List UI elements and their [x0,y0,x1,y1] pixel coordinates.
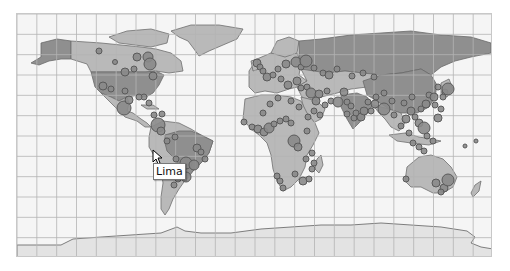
city-marker[interactable] [122,88,128,94]
new-zealand[interactable] [471,181,481,197]
city-marker[interactable] [324,88,330,94]
city-marker[interactable] [151,112,157,118]
city-marker[interactable] [410,140,416,146]
city-marker[interactable] [136,94,142,100]
city-marker[interactable] [371,100,379,108]
city-marker[interactable] [267,101,273,107]
city-marker[interactable] [371,74,377,80]
city-marker[interactable] [202,156,208,162]
city-marker[interactable] [406,130,412,136]
city-marker[interactable] [288,120,294,126]
city-marker[interactable] [421,148,427,154]
city-marker[interactable] [403,176,409,182]
city-marker[interactable] [353,110,359,116]
city-marker[interactable] [288,98,294,104]
city-marker[interactable] [270,72,276,78]
city-marker[interactable] [381,90,387,96]
city-marker[interactable] [300,55,312,67]
city-marker[interactable] [378,103,390,115]
city-marker[interactable] [282,60,290,68]
city-marker[interactable] [131,66,137,72]
city-marker[interactable] [418,122,430,134]
antarctica[interactable] [17,223,492,257]
city-marker[interactable] [333,97,343,107]
city-marker[interactable] [348,103,354,109]
city-marker[interactable] [334,66,340,72]
map-canvas[interactable] [17,14,492,257]
city-marker[interactable] [293,77,301,85]
city-marker[interactable] [309,166,315,172]
city-marker[interactable] [422,100,430,108]
city-marker[interactable] [189,160,199,170]
city-marker[interactable] [164,138,170,144]
city-marker[interactable] [401,100,407,106]
city-marker[interactable] [442,83,454,95]
city-marker[interactable] [198,149,204,155]
world-map[interactable]: Lima [16,13,492,257]
city-marker[interactable] [311,108,317,114]
city-marker[interactable] [424,133,430,139]
city-marker[interactable] [435,84,441,90]
city-marker[interactable] [368,108,374,114]
city-marker[interactable] [241,119,247,125]
city-marker[interactable] [391,112,397,118]
city-marker[interactable] [365,99,371,105]
city-marker[interactable] [349,73,355,79]
city-marker[interactable] [260,110,266,116]
city-marker[interactable] [292,171,298,177]
city-marker[interactable] [278,76,284,82]
city-marker[interactable] [274,173,280,179]
city-marker[interactable] [311,160,317,166]
city-marker[interactable] [312,97,320,105]
city-marker[interactable] [305,114,311,120]
city-marker[interactable] [108,86,114,92]
city-marker[interactable] [284,81,292,89]
city-marker[interactable] [159,111,165,117]
city-marker[interactable] [275,66,281,72]
city-marker[interactable] [294,143,302,151]
city-marker[interactable] [99,82,107,90]
city-marker[interactable] [296,104,302,110]
city-marker[interactable] [125,96,133,104]
city-marker[interactable] [133,53,141,61]
city-marker[interactable] [389,98,395,104]
city-marker[interactable] [402,115,410,123]
city-marker[interactable] [311,65,317,71]
city-marker[interactable] [430,93,438,101]
city-marker[interactable] [306,176,312,182]
city-marker[interactable] [442,174,454,186]
city-marker[interactable] [304,128,310,134]
city-marker[interactable] [325,71,333,79]
city-marker[interactable] [373,94,379,100]
city-marker[interactable] [280,185,286,191]
city-marker[interactable] [144,58,156,70]
city-marker[interactable] [344,111,350,117]
city-marker[interactable] [303,156,309,162]
greenland[interactable] [171,25,243,56]
city-marker[interactable] [113,60,118,65]
city-marker[interactable] [121,68,129,76]
city-marker[interactable] [157,127,165,135]
city-marker[interactable] [360,70,366,76]
city-marker[interactable] [173,156,179,162]
city-marker[interactable] [146,100,152,106]
city-marker[interactable] [275,95,281,101]
city-marker[interactable] [434,114,442,122]
city-marker[interactable] [271,121,277,127]
city-marker[interactable] [463,144,467,148]
city-marker[interactable] [317,112,323,118]
city-marker[interactable] [171,182,177,188]
city-marker[interactable] [409,94,415,100]
city-marker[interactable] [432,179,440,187]
city-marker[interactable] [309,150,315,156]
city-marker[interactable] [430,138,436,144]
city-marker[interactable] [277,118,283,124]
city-marker[interactable] [306,88,316,98]
city-marker[interactable] [340,88,348,96]
city-marker[interactable] [438,189,444,195]
city-marker[interactable] [298,85,304,91]
city-marker[interactable] [172,134,178,140]
russia[interactable] [299,31,491,77]
city-marker[interactable] [360,107,368,115]
city-marker[interactable] [440,94,446,100]
